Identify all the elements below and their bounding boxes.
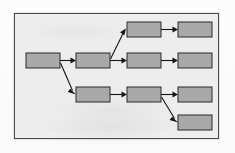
edge-n8-to-n9 <box>161 92 178 98</box>
edge-n1-to-n2 <box>60 58 76 64</box>
edge-n2-to-n4 <box>110 58 127 64</box>
node-layer <box>26 22 212 130</box>
node-box[interactable] <box>26 53 60 68</box>
node-box[interactable] <box>76 87 110 102</box>
edge-n3-to-n5 <box>161 27 178 33</box>
node-box[interactable] <box>127 22 161 37</box>
edge-n1-to-n7 <box>61 63 77 95</box>
node-box[interactable] <box>178 115 212 130</box>
diagram-panel <box>14 13 219 139</box>
connector-layer <box>60 27 178 123</box>
edge-n2-to-n3 <box>111 29 127 60</box>
node-box[interactable] <box>76 53 110 68</box>
edge-n7-to-n8 <box>110 92 127 98</box>
flow-diagram-canvas <box>15 14 220 140</box>
node-box[interactable] <box>127 53 161 68</box>
node-box[interactable] <box>127 87 161 102</box>
node-box[interactable] <box>178 22 212 37</box>
scanned-page-background <box>0 0 235 153</box>
node-box[interactable] <box>178 87 212 102</box>
edge-n4-to-n6 <box>161 58 178 64</box>
node-box[interactable] <box>178 53 212 68</box>
edge-n8-to-n10 <box>162 97 179 123</box>
